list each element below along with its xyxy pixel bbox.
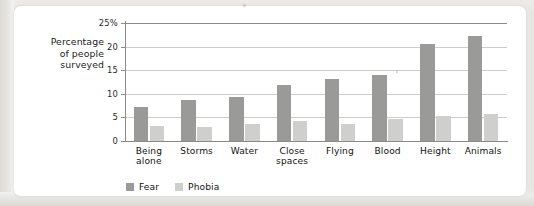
x-axis-label-flying: Flying xyxy=(316,146,364,156)
bar-chart: Percentage of people surveyed 0510152025… xyxy=(0,0,534,206)
x-axis-label-line: Height xyxy=(412,146,460,156)
bar-fear-close-spaces[interactable] xyxy=(277,85,292,141)
x-axis-label-line: alone xyxy=(125,156,173,166)
bar-group xyxy=(125,23,173,141)
bar-fear-flying[interactable] xyxy=(325,79,340,141)
x-axis-label-line: Blood xyxy=(364,146,412,156)
bar-group xyxy=(268,23,316,141)
x-axis-label-height: Height xyxy=(412,146,460,156)
x-axis-line xyxy=(124,141,508,142)
y-axis-tick-label-text: 0 xyxy=(86,136,118,146)
scanned-page: Percentage of people surveyed 0510152025… xyxy=(0,0,534,206)
y-axis-tick-label: 0 xyxy=(86,136,118,146)
bar-group xyxy=(221,23,269,141)
y-axis-tick-label: 25% xyxy=(86,18,118,28)
bar-fear-being-alone[interactable] xyxy=(134,107,149,141)
y-axis-tick-label-text: 10 xyxy=(86,89,118,99)
bar-fear-water[interactable] xyxy=(229,97,244,141)
legend-label: Phobia xyxy=(188,182,219,192)
x-axis-label-line: Animals xyxy=(459,146,507,156)
y-axis-tick-label-text: 25% xyxy=(86,18,118,28)
x-axis-label-blood: Blood xyxy=(364,146,412,156)
y-axis-tick-label: 15 xyxy=(86,65,118,75)
bar-group xyxy=(364,23,412,141)
bar-phobia-flying[interactable] xyxy=(341,124,356,141)
bar-phobia-animals[interactable] xyxy=(484,114,499,141)
x-axis-label-line: spaces xyxy=(268,156,316,166)
y-axis-tick-label: 20 xyxy=(86,42,118,52)
bar-phobia-storms[interactable] xyxy=(197,127,212,141)
legend-swatch-icon xyxy=(126,183,134,191)
y-axis-tick-label-text: 15 xyxy=(86,65,118,75)
x-axis-label-being-alone: Beingalone xyxy=(125,146,173,167)
bar-phobia-close-spaces[interactable] xyxy=(293,121,308,141)
bar-phobia-being-alone[interactable] xyxy=(150,126,165,141)
x-axis-label-storms: Storms xyxy=(173,146,221,156)
x-axis-label-line: Storms xyxy=(173,146,221,156)
plot-area xyxy=(125,23,507,141)
x-axis-label-line: Close xyxy=(268,146,316,156)
bar-fear-animals[interactable] xyxy=(468,36,483,141)
bar-group xyxy=(412,23,460,141)
legend-item-phobia[interactable]: Phobia xyxy=(175,182,219,192)
legend-label: Fear xyxy=(139,182,159,192)
x-axis-label-water: Water xyxy=(221,146,269,156)
x-axis-label-close-spaces: Closespaces xyxy=(268,146,316,167)
x-axis-label-line: Flying xyxy=(316,146,364,156)
y-axis-tick-label: 5 xyxy=(86,112,118,122)
bar-phobia-height[interactable] xyxy=(436,116,451,141)
bar-phobia-blood[interactable] xyxy=(388,119,403,141)
x-axis-label-line: Being xyxy=(125,146,173,156)
bar-group xyxy=(459,23,507,141)
legend-item-fear[interactable]: Fear xyxy=(126,182,159,192)
bar-fear-storms[interactable] xyxy=(181,100,196,141)
bar-group xyxy=(316,23,364,141)
bar-phobia-water[interactable] xyxy=(245,124,260,141)
bar-group xyxy=(173,23,221,141)
x-axis-label-animals: Animals xyxy=(459,146,507,156)
y-axis-tick-label-text: 5 xyxy=(86,112,118,122)
bar-fear-blood[interactable] xyxy=(372,75,387,141)
y-axis-tick-label-text: 20 xyxy=(86,42,118,52)
y-axis-tick-label: 10 xyxy=(86,89,118,99)
chart-legend: FearPhobia xyxy=(126,182,219,192)
bar-fear-height[interactable] xyxy=(420,44,435,141)
legend-swatch-icon xyxy=(175,183,183,191)
x-axis-label-line: Water xyxy=(221,146,269,156)
